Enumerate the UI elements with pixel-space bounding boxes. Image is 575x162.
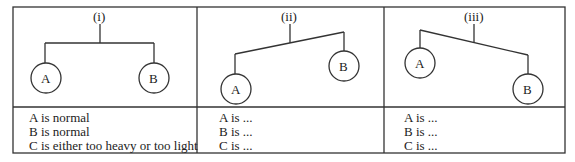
panel-label-iii: (iii): [464, 9, 484, 24]
panel-ii-line-2: B is ...: [219, 124, 253, 139]
panel-i-line-3: C is either too heavy or too light: [29, 138, 198, 153]
panel-label-ii: (ii): [281, 9, 297, 24]
node-b-iii: B: [523, 82, 532, 97]
node-b-ii: B: [339, 59, 348, 74]
node-b-i: B: [149, 71, 158, 86]
node-a-i: A: [41, 71, 50, 86]
node-a-iii: A: [415, 56, 424, 71]
panel-i-line-1: A is normal: [29, 110, 90, 125]
panel-label-i: (i): [93, 9, 105, 24]
panel-iii-line-3: C is ...: [404, 138, 438, 153]
panel-iii-line-1: A is ...: [404, 110, 438, 125]
panel-i-line-2: B is normal: [29, 124, 90, 139]
panel-ii-line-3: C is ...: [219, 138, 253, 153]
node-a-ii: A: [231, 82, 240, 97]
panel-iii-line-2: B is ...: [404, 124, 438, 139]
panel-ii-line-1: A is ...: [219, 110, 253, 125]
